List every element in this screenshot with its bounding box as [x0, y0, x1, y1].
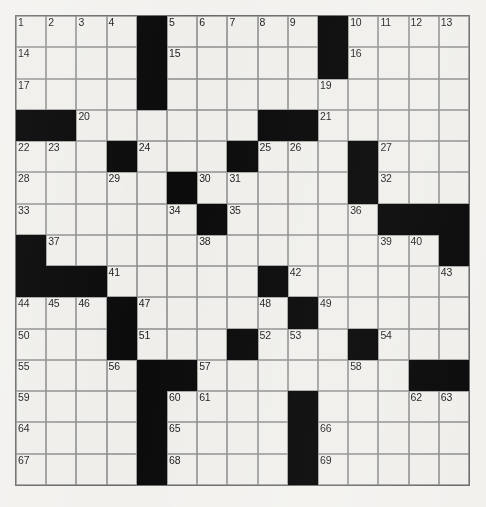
letter-cell[interactable]: 7 — [227, 16, 257, 47]
letter-cell[interactable]: 24 — [137, 141, 167, 172]
letter-cell[interactable] — [46, 422, 76, 453]
letter-cell[interactable] — [227, 297, 257, 328]
letter-cell[interactable] — [409, 329, 439, 360]
letter-cell[interactable] — [288, 204, 318, 235]
letter-cell[interactable]: 43 — [439, 266, 469, 297]
letter-cell[interactable] — [258, 422, 288, 453]
letter-cell[interactable]: 42 — [288, 266, 318, 297]
letter-cell[interactable]: 37 — [46, 235, 76, 266]
letter-cell[interactable] — [258, 360, 288, 391]
letter-cell[interactable] — [348, 391, 378, 422]
letter-cell[interactable]: 25 — [258, 141, 288, 172]
letter-cell[interactable] — [107, 454, 137, 485]
letter-cell[interactable] — [378, 297, 408, 328]
letter-cell[interactable] — [439, 454, 469, 485]
letter-cell[interactable] — [409, 47, 439, 78]
letter-cell[interactable]: 2 — [46, 16, 76, 47]
letter-cell[interactable] — [137, 204, 167, 235]
letter-cell[interactable] — [258, 454, 288, 485]
letter-cell[interactable] — [167, 266, 197, 297]
letter-cell[interactable]: 33 — [16, 204, 46, 235]
letter-cell[interactable]: 1 — [16, 16, 46, 47]
letter-cell[interactable] — [46, 360, 76, 391]
letter-cell[interactable]: 12 — [409, 16, 439, 47]
letter-cell[interactable]: 22 — [16, 141, 46, 172]
letter-cell[interactable] — [167, 79, 197, 110]
letter-cell[interactable] — [378, 391, 408, 422]
letter-cell[interactable] — [76, 204, 106, 235]
letter-cell[interactable]: 40 — [409, 235, 439, 266]
letter-cell[interactable] — [409, 110, 439, 141]
letter-cell[interactable] — [137, 235, 167, 266]
letter-cell[interactable] — [197, 79, 227, 110]
letter-cell[interactable] — [409, 266, 439, 297]
letter-cell[interactable]: 15 — [167, 47, 197, 78]
letter-cell[interactable] — [76, 141, 106, 172]
letter-cell[interactable]: 59 — [16, 391, 46, 422]
letter-cell[interactable] — [197, 47, 227, 78]
letter-cell[interactable]: 26 — [288, 141, 318, 172]
letter-cell[interactable]: 3 — [76, 16, 106, 47]
letter-cell[interactable]: 29 — [107, 172, 137, 203]
letter-cell[interactable] — [439, 329, 469, 360]
letter-cell[interactable]: 57 — [197, 360, 227, 391]
letter-cell[interactable] — [107, 235, 137, 266]
letter-cell[interactable] — [348, 110, 378, 141]
letter-cell[interactable] — [76, 47, 106, 78]
letter-cell[interactable]: 60 — [167, 391, 197, 422]
letter-cell[interactable]: 68 — [167, 454, 197, 485]
letter-cell[interactable] — [107, 391, 137, 422]
crossword-grid[interactable]: 1234567891011121314151617192021222324252… — [15, 15, 470, 486]
letter-cell[interactable] — [439, 422, 469, 453]
letter-cell[interactable]: 55 — [16, 360, 46, 391]
letter-cell[interactable] — [197, 329, 227, 360]
letter-cell[interactable]: 39 — [378, 235, 408, 266]
letter-cell[interactable]: 27 — [378, 141, 408, 172]
letter-cell[interactable]: 63 — [439, 391, 469, 422]
letter-cell[interactable] — [137, 266, 167, 297]
letter-cell[interactable]: 51 — [137, 329, 167, 360]
letter-cell[interactable] — [258, 204, 288, 235]
letter-cell[interactable] — [378, 47, 408, 78]
letter-cell[interactable] — [46, 329, 76, 360]
letter-cell[interactable] — [227, 422, 257, 453]
letter-cell[interactable] — [167, 297, 197, 328]
letter-cell[interactable] — [137, 110, 167, 141]
letter-cell[interactable]: 10 — [348, 16, 378, 47]
letter-cell[interactable]: 36 — [348, 204, 378, 235]
letter-cell[interactable] — [227, 454, 257, 485]
letter-cell[interactable]: 69 — [318, 454, 348, 485]
letter-cell[interactable] — [348, 454, 378, 485]
letter-cell[interactable] — [348, 235, 378, 266]
letter-cell[interactable] — [318, 391, 348, 422]
letter-cell[interactable] — [107, 110, 137, 141]
letter-cell[interactable] — [318, 204, 348, 235]
letter-cell[interactable]: 9 — [288, 16, 318, 47]
letter-cell[interactable] — [439, 79, 469, 110]
letter-cell[interactable]: 62 — [409, 391, 439, 422]
letter-cell[interactable] — [46, 204, 76, 235]
letter-cell[interactable]: 17 — [16, 79, 46, 110]
letter-cell[interactable] — [258, 235, 288, 266]
letter-cell[interactable]: 30 — [197, 172, 227, 203]
letter-cell[interactable] — [227, 79, 257, 110]
letter-cell[interactable]: 28 — [16, 172, 46, 203]
letter-cell[interactable] — [167, 329, 197, 360]
letter-cell[interactable]: 50 — [16, 329, 46, 360]
letter-cell[interactable] — [76, 391, 106, 422]
letter-cell[interactable] — [167, 141, 197, 172]
letter-cell[interactable] — [409, 297, 439, 328]
letter-cell[interactable]: 46 — [76, 297, 106, 328]
letter-cell[interactable]: 49 — [318, 297, 348, 328]
letter-cell[interactable]: 5 — [167, 16, 197, 47]
letter-cell[interactable] — [288, 79, 318, 110]
letter-cell[interactable]: 65 — [167, 422, 197, 453]
letter-cell[interactable]: 11 — [378, 16, 408, 47]
letter-cell[interactable] — [409, 141, 439, 172]
letter-cell[interactable]: 23 — [46, 141, 76, 172]
letter-cell[interactable] — [227, 266, 257, 297]
letter-cell[interactable] — [439, 297, 469, 328]
letter-cell[interactable]: 52 — [258, 329, 288, 360]
letter-cell[interactable] — [288, 360, 318, 391]
letter-cell[interactable] — [439, 141, 469, 172]
